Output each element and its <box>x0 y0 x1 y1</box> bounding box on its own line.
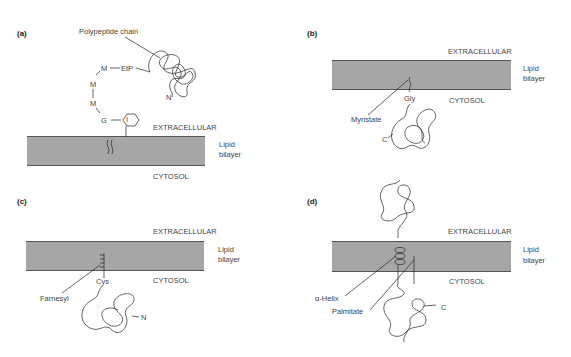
panel-d: (d) EXTRACELLULAR Lipid bilayer CYTOSOL … <box>290 180 571 357</box>
helix-turn-icon <box>395 248 405 253</box>
panel-a: (a) Polypeptide chain M EtP M M G I N EX… <box>0 0 290 180</box>
inositol-ring-icon <box>123 114 139 126</box>
panel-c-drawing <box>0 180 290 357</box>
panel-c: (c) EXTRACELLULAR Lipid bilayer Cys CYTO… <box>0 180 290 357</box>
panel-b: (b) EXTRACELLULAR Lipid bilayer Gly CYTO… <box>290 0 571 180</box>
panel-a-drawing <box>0 0 290 180</box>
panel-b-drawing <box>290 0 571 180</box>
panel-d-drawing <box>290 180 571 357</box>
